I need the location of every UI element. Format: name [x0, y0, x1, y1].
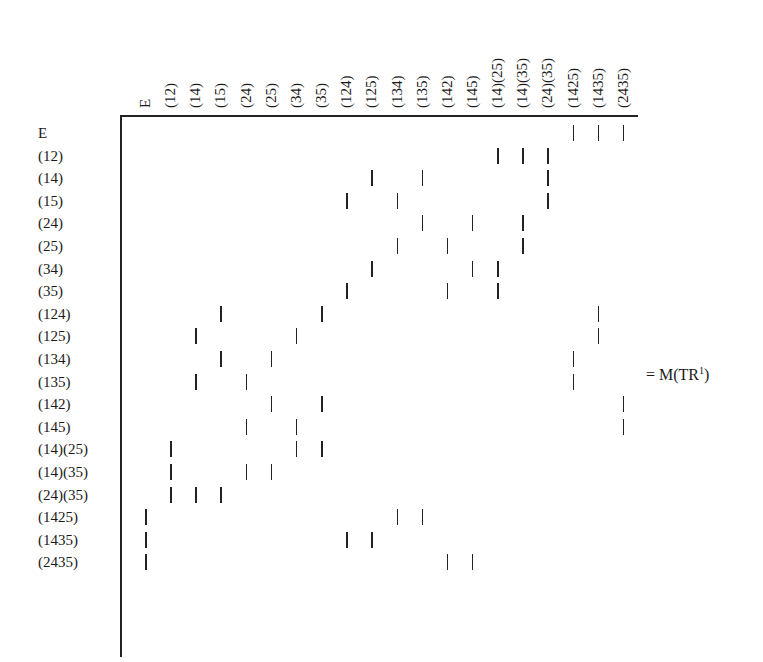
matrix-entry-mark — [472, 554, 474, 570]
column-label: (142) — [434, 0, 459, 112]
matrix-entry-mark — [447, 238, 449, 254]
column-label: (24)(35) — [535, 0, 560, 112]
column-label: (15) — [208, 0, 233, 112]
matrix-entry-mark — [397, 509, 399, 525]
column-label-text: (14)(25) — [490, 58, 505, 108]
column-label-text: (25) — [263, 83, 278, 108]
column-label: E — [133, 0, 158, 112]
matrix-entry-mark — [195, 374, 197, 390]
column-label: (14) — [183, 0, 208, 112]
row-label: E — [38, 126, 47, 141]
column-label: (145) — [459, 0, 484, 112]
matrix-entry-mark — [321, 441, 323, 457]
matrix-entry-mark — [598, 328, 600, 344]
matrix-entry-mark — [145, 554, 147, 570]
column-label-text: (135) — [414, 76, 429, 109]
matrix-entry-mark — [195, 487, 197, 503]
matrix-entry-mark — [472, 215, 474, 231]
matrix-entry-mark — [220, 487, 222, 503]
matrix-entry-mark — [271, 396, 273, 412]
matrix-entry-mark — [170, 464, 172, 480]
matrix-entry-mark — [422, 215, 424, 231]
matrix-entry-mark — [145, 532, 147, 548]
matrix-entry-mark — [472, 261, 474, 277]
matrix-entry-mark — [246, 464, 248, 480]
matrix-entry-mark — [145, 509, 147, 525]
row-label: (1435) — [38, 533, 78, 548]
matrix-entry-mark — [170, 487, 172, 503]
matrix-entry-mark — [397, 193, 399, 209]
matrix-entry-mark — [522, 215, 524, 231]
matrix-entry-mark — [422, 509, 424, 525]
row-label: (34) — [38, 262, 63, 277]
matrix-entry-mark — [346, 532, 348, 548]
matrix-entry-mark — [321, 306, 323, 322]
matrix-equation-label: = M(TR1) — [646, 365, 709, 384]
column-label-text: (2435) — [615, 68, 630, 108]
matrix-entry-mark — [522, 238, 524, 254]
column-label-text: (35) — [314, 83, 329, 108]
column-label: (34) — [283, 0, 308, 112]
column-label-text: (34) — [288, 83, 303, 108]
matrix-entry-mark — [573, 374, 575, 390]
matrix-entry-mark — [170, 441, 172, 457]
column-label-text: (14)(35) — [515, 58, 530, 108]
matrix-entry-mark — [220, 351, 222, 367]
column-label: (14)(25) — [485, 0, 510, 112]
column-label: (14)(35) — [510, 0, 535, 112]
column-label-text: (142) — [439, 76, 454, 109]
matrix-entry-mark — [422, 170, 424, 186]
matrix-entry-mark — [547, 193, 549, 209]
matrix-entry-mark — [598, 125, 600, 141]
matrix-entry-mark — [397, 238, 399, 254]
matrix-entry-mark — [346, 193, 348, 209]
column-label: (125) — [359, 0, 384, 112]
column-label-text: (15) — [213, 83, 228, 108]
column-label-text: E — [138, 99, 153, 108]
column-label: (2435) — [610, 0, 635, 112]
row-label: (14)(35) — [38, 465, 88, 480]
column-label-text: (24) — [238, 83, 253, 108]
matrix-entry-mark — [296, 419, 298, 435]
row-label: (134) — [38, 352, 71, 367]
column-label-text: (1435) — [590, 68, 605, 108]
column-label: (124) — [334, 0, 359, 112]
column-label: (1435) — [585, 0, 610, 112]
matrix-entry-mark — [220, 306, 222, 322]
matrix-entry-mark — [371, 532, 373, 548]
row-label: (12) — [38, 149, 63, 164]
column-label: (134) — [384, 0, 409, 112]
row-label: (25) — [38, 239, 63, 254]
column-label-text: (124) — [339, 76, 354, 109]
matrix-entry-mark — [623, 125, 625, 141]
matrix-entry-mark — [598, 306, 600, 322]
column-label-text: (14) — [188, 83, 203, 108]
matrix-entry-mark — [246, 374, 248, 390]
row-label: (24)(35) — [38, 488, 88, 503]
equation-suffix: ) — [704, 366, 709, 383]
matrix-entry-mark — [547, 148, 549, 164]
row-label: (142) — [38, 397, 71, 412]
matrix-entry-mark — [497, 148, 499, 164]
matrix-entry-mark — [296, 328, 298, 344]
column-label: (35) — [309, 0, 334, 112]
matrix-entry-mark — [246, 419, 248, 435]
column-label: (1425) — [560, 0, 585, 112]
column-label-text: (12) — [163, 83, 178, 108]
matrix-left-border — [120, 115, 122, 657]
matrix-entry-mark — [623, 396, 625, 412]
row-label: (15) — [38, 194, 63, 209]
column-label-text: (134) — [389, 76, 404, 109]
matrix-entry-mark — [296, 441, 298, 457]
matrix-entry-mark — [573, 351, 575, 367]
column-label: (24) — [233, 0, 258, 112]
row-label: (14) — [38, 171, 63, 186]
row-label: (124) — [38, 307, 71, 322]
matrix-entry-mark — [447, 554, 449, 570]
matrix-entry-mark — [447, 283, 449, 299]
column-label-text: (1425) — [565, 68, 580, 108]
row-label: (1425) — [38, 510, 78, 525]
column-label: (135) — [409, 0, 434, 112]
matrix-entry-mark — [497, 261, 499, 277]
matrix-top-border — [120, 115, 638, 117]
